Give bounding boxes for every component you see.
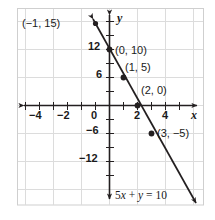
data-point — [121, 75, 127, 81]
point-label-0-10: (0, 10) — [115, 45, 147, 56]
x-tick-label-zero: 0 — [91, 110, 97, 121]
data-point — [135, 103, 141, 109]
x-tick-label-2: 2 — [134, 110, 140, 121]
x-axis-name: x — [191, 109, 197, 121]
point-label-2-0: (2, 0) — [141, 85, 167, 96]
y-tick-label-6: 6 — [96, 69, 102, 80]
y-tick-label-minus6: −6 — [86, 125, 99, 136]
data-point — [107, 47, 113, 53]
x-tick-label-minus2: −2 — [57, 110, 70, 121]
graph-figure: −4 −2 0 2 4 12 6 −6 −12 x y (−1, 15) (0,… — [0, 0, 215, 220]
y-tick-label-minus12: −12 — [79, 153, 98, 164]
equation-equals-sign: = — [143, 189, 155, 201]
point-label-minus1-15: (−1, 15) — [22, 18, 60, 29]
x-tick-label-minus4: −4 — [29, 110, 42, 121]
point-label-1-5: (1, 5) — [125, 62, 151, 73]
y-axis-name: y — [117, 12, 122, 24]
x-tick-label-4: 4 — [162, 110, 168, 121]
equation-plus-sign: + — [126, 189, 138, 201]
equation-annotation: 5x + y = 10 — [115, 190, 167, 202]
point-label-3-minus5: (3, −5) — [157, 128, 189, 139]
y-tick-label-12: 12 — [88, 41, 100, 52]
data-point — [93, 21, 98, 26]
data-point — [149, 131, 155, 137]
equation-right-side: 10 — [155, 189, 167, 201]
